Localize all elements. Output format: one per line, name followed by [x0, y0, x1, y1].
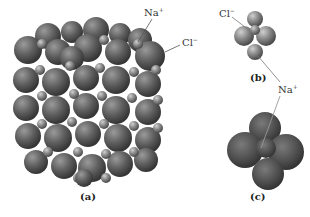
label-bc-na-charge: +	[293, 83, 298, 90]
label-a-cl-base: Cl	[182, 37, 193, 48]
label-a-cl-charge: −	[193, 36, 198, 43]
caption-a: (a)	[80, 192, 96, 202]
figure-canvas: Na+ Cl− Cl− Na+ (a) (b) (c)	[0, 0, 310, 217]
label-a-na: Na+	[144, 7, 164, 18]
panel-b-cluster	[234, 11, 276, 60]
label-a-cl: Cl−	[182, 37, 198, 48]
label-a-na-base: Na	[144, 7, 159, 18]
label-b-cl-charge: −	[230, 7, 235, 14]
caption-b: (b)	[250, 73, 266, 83]
label-bc-na: Na+	[278, 84, 298, 95]
panel-c-cluster	[227, 112, 304, 190]
label-b-cl-base: Cl	[219, 8, 230, 19]
panel-a-lattice	[13, 17, 165, 187]
caption-c: (c)	[250, 192, 266, 202]
label-a-na-charge: +	[159, 6, 164, 13]
nacl-diagram	[0, 0, 310, 217]
label-bc-na-base: Na	[278, 84, 293, 95]
leader-a-cl	[165, 45, 180, 52]
label-b-cl: Cl−	[219, 8, 235, 19]
